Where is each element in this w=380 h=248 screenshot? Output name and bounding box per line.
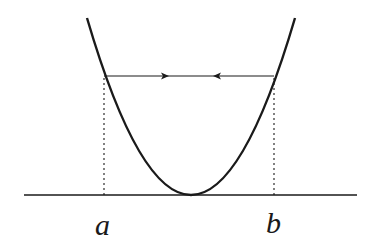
label-a: a: [95, 210, 110, 240]
parabola-diagram: [0, 0, 380, 248]
label-b: b: [266, 208, 281, 238]
parabola-curve: [87, 18, 295, 195]
